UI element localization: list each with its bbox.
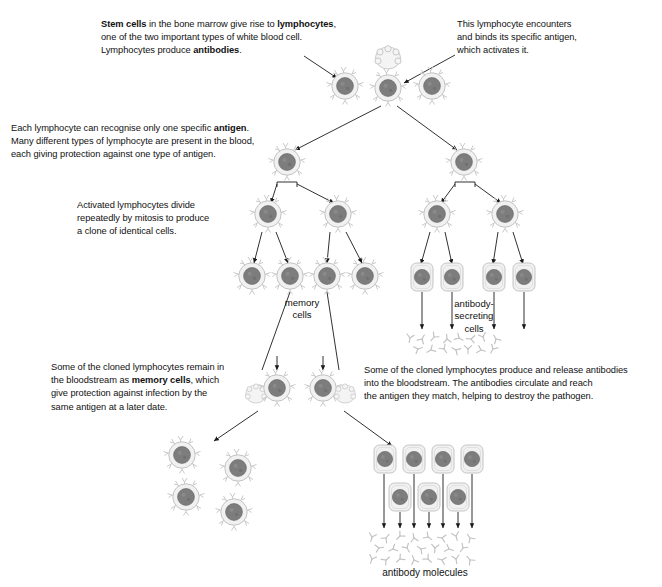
caption-recognise-text-2: . [246,123,249,133]
plasma-4 [513,263,535,291]
plasma-pool-group [374,445,483,511]
caption-memory-line4: same antigen at a later date. [51,402,167,412]
label-secreting-line3: cells [464,323,483,334]
caption-memory: Some of the cloned lymphocytes remain in… [51,361,311,414]
caption-stem-cells-bold-2: lymphocytes [277,19,333,29]
generation-3-memory-group [234,257,384,295]
caption-encounter-line3: which activates it. [457,45,529,55]
caption-mitosis: Activated lymphocytes divide repeatedly … [77,199,287,239]
caption-mitosis-line2: repeatedly by mitosis to produce [77,213,209,223]
caption-stem-cells-text-3: Lymphocytes produce [101,45,193,55]
label-memory-cells-line2: cells [292,309,311,320]
clone-r1 [419,195,456,233]
caption-encounter-line1: This lymphocyte encounters [457,19,571,29]
label-secreting-line1: antibody- [454,298,493,309]
pp-1 [374,445,396,473]
caption-stem-cells: Stem cells in the bone marrow give rise … [101,18,431,58]
pp-7 [447,483,469,511]
caption-stem-cells-text-2: , [333,19,336,29]
stem-lymphocyte-left [327,67,364,105]
label-memory-cells: memory cells [272,297,332,322]
caption-stem-cells-bold-3: antibodies [193,45,239,55]
caption-stem-cells-text-1: in the bone marrow give rise to [147,19,278,29]
antibodies-bottom [367,531,475,565]
cell-layer [0,0,662,587]
clone-r2 [487,195,524,233]
caption-mitosis-line1: Activated lymphocytes divide [77,200,195,210]
pp-5 [389,483,411,511]
caption-encounter: This lymphocyte encounters and binds its… [457,18,657,58]
clone-l2 [320,195,357,233]
caption-memory-text-1: the bloodstream as [51,375,132,385]
label-memory-cells-line1: memory [285,297,320,308]
clone-right [446,143,483,181]
memory-1 [234,257,271,295]
caption-release-line2: into the bloodstream. The antibodies cir… [364,378,593,388]
pool-4 [216,493,253,531]
pp-4 [461,445,483,473]
pp-3 [432,445,454,473]
label-antibody-molecules-text: antibody molecules [382,567,468,578]
memory-pool-group [164,436,257,531]
antibodies-mid [406,332,501,355]
label-secreting-line2: secreting [455,310,494,321]
generation-2-group [250,195,524,233]
immunology-diagram: Stem cells in the bone marrow give rise … [0,0,662,587]
memory-3 [309,257,346,295]
caption-stem-cells-line2: one of the two important types of white … [101,32,302,42]
caption-release-line1: Some of the cloned lymphocytes produce a… [364,365,628,375]
caption-memory-line1: Some of the cloned lymphocytes remain in [51,362,224,372]
plasma-2 [441,263,463,291]
pp-2 [403,445,425,473]
caption-memory-bold-1: memory cells [132,375,191,385]
caption-recognise: Each lymphocyte can recognise only one s… [11,122,351,162]
pool-1 [164,436,201,474]
label-antibody-secreting-cells: antibody- secreting cells [441,298,507,335]
caption-recognise-line2: Many different types of lymphocyte are p… [11,136,254,146]
caption-stem-cells-text-4: . [239,45,242,55]
stem-lymphocyte-right [414,67,451,105]
caption-release: Some of the cloned lymphocytes produce a… [364,364,662,404]
caption-encounter-line2: and binds its specific antigen, [457,32,577,42]
caption-stem-cells-bold-1: Stem cells [101,19,147,29]
caption-recognise-bold-1: antigen [214,123,247,133]
memory-4 [347,257,384,295]
antigen-bound-right [334,384,355,403]
pp-6 [418,483,440,511]
generation-3-plasma-group [411,263,535,291]
caption-recognise-line3: each giving protection against one type … [11,149,216,159]
pool-2 [220,449,257,487]
caption-memory-text-2: , which [191,375,220,385]
label-antibody-molecules: antibody molecules [355,567,495,579]
plasma-1 [411,263,433,291]
caption-memory-line3: give protection against infection by the [51,388,207,398]
caption-recognise-text-1: Each lymphocyte can recognise only one s… [11,123,214,133]
caption-mitosis-line3: a clone of identical cells. [77,226,176,236]
pool-3 [168,478,205,516]
plasma-3 [483,263,505,291]
memory-2 [272,257,309,295]
activated-lymphocyte-centre [370,69,407,107]
caption-release-line3: the antigen they match, helping to destr… [364,391,593,401]
